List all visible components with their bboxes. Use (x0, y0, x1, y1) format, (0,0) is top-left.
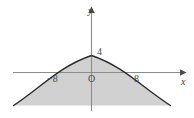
figure-canvas (0, 0, 194, 118)
x-axis-arrow-icon (180, 69, 187, 76)
x-axis-label: x (181, 77, 185, 87)
x-tick-label-minus-8: −8 (47, 74, 58, 84)
x-tick-label-8: 8 (134, 74, 139, 84)
y-tick-label-4: 4 (97, 47, 102, 57)
origin-label: O (88, 74, 95, 84)
parabola-figure: y x 4 O −8 8 (0, 0, 194, 118)
y-axis-label: y (88, 6, 92, 16)
